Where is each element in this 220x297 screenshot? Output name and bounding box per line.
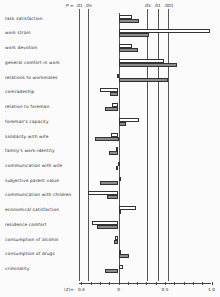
- x-tick: [91, 282, 92, 285]
- x-tick: [193, 282, 194, 285]
- x-tick-label: 0.5: [162, 287, 169, 292]
- p-prefix-label: P =: [66, 3, 74, 8]
- category-label: foreman's capacity: [5, 119, 49, 124]
- shaded-bar: [119, 33, 150, 37]
- category-label: solidarity with wife: [5, 134, 49, 139]
- shaded-bar: [95, 137, 118, 141]
- category-label: subjective parent value: [5, 178, 59, 183]
- x-tick-label: 1.0: [208, 287, 215, 292]
- x-tick: [137, 282, 138, 285]
- category-label: economical satisfaction: [5, 207, 59, 212]
- category-label: communication with wife: [5, 163, 62, 168]
- category-label: consumption of alcohol: [5, 237, 58, 242]
- category-label: task satisfaction: [5, 16, 43, 21]
- shaded-bar: [119, 63, 178, 67]
- x-tick: [165, 282, 166, 285]
- shaded-bar: [105, 107, 119, 111]
- shaded-bar: [116, 166, 119, 170]
- shaded-bar: [97, 225, 118, 229]
- x-tick-label: 0.4: [78, 287, 85, 292]
- significance-line: [158, 9, 159, 281]
- x-tick: [81, 282, 82, 285]
- significance-line: [88, 9, 89, 281]
- category-label: family's work-identity: [5, 148, 55, 153]
- shaded-bar: [119, 122, 126, 126]
- open-bar: [119, 265, 124, 269]
- category-label: residence comfort: [5, 222, 47, 227]
- x-axis-label: (Z)=: [64, 287, 74, 292]
- category-label: communication with children: [5, 192, 71, 197]
- significance-line: [147, 9, 148, 281]
- x-tick: [156, 282, 157, 285]
- category-label: general comfort in work: [5, 60, 60, 65]
- category-label: work devotion: [5, 45, 38, 50]
- p-right-05-label: .05: [144, 3, 151, 8]
- shaded-bar: [119, 19, 139, 23]
- p-right-001-label: .001: [164, 3, 174, 8]
- x-tick: [146, 282, 147, 285]
- x-tick: [109, 282, 110, 285]
- shaded-bar: [110, 92, 118, 96]
- x-tick: [184, 282, 185, 285]
- x-tick-label: 0: [117, 287, 120, 292]
- category-label: criminality: [5, 266, 29, 271]
- shaded-bar: [119, 210, 121, 214]
- category-label: work strain: [5, 30, 31, 35]
- x-tick: [212, 282, 213, 285]
- p-left-01-label: .01: [76, 3, 83, 8]
- open-bar: [119, 206, 137, 210]
- zero-line: [119, 13, 120, 283]
- category-label: consumption of drugs: [5, 251, 55, 256]
- p-left-05-label: .05: [85, 3, 92, 8]
- open-bar: [119, 177, 121, 181]
- shaded-bar: [105, 269, 119, 273]
- significance-line: [168, 9, 169, 281]
- chart-area: P = .01 .05 .05 .01 .001 task satisfacti…: [0, 0, 220, 297]
- shaded-bar: [114, 240, 119, 244]
- shaded-bar: [109, 151, 118, 155]
- category-label: comradeship: [5, 89, 34, 94]
- significance-line: [79, 9, 80, 281]
- x-tick: [119, 282, 120, 285]
- p-right-01-label: .01: [154, 3, 161, 8]
- category-label: relations to workmates: [5, 75, 58, 80]
- shaded-bar: [119, 48, 139, 52]
- x-tick: [100, 282, 101, 285]
- shaded-bar: [100, 181, 119, 185]
- shaded-bar: [107, 195, 118, 199]
- shaded-bar: [119, 254, 129, 258]
- x-tick: [202, 282, 203, 285]
- shaded-bar: [119, 78, 168, 82]
- x-tick: [174, 282, 175, 285]
- category-label: relation to foreman: [5, 104, 49, 109]
- x-tick: [128, 282, 129, 285]
